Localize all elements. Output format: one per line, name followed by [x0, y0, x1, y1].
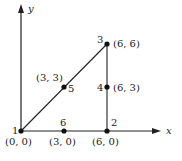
axes: y x — [18, 3, 172, 136]
node-2-number: 2 — [111, 117, 117, 128]
node-1-coord: (0, 0) — [5, 136, 32, 147]
node-4-number: 4 — [97, 82, 103, 93]
x-axis-label: x — [166, 125, 172, 136]
node-1-number: 1 — [12, 125, 18, 136]
node-5-coord: (3, 3) — [36, 72, 63, 83]
node-4 — [104, 84, 109, 89]
node-6-number: 6 — [60, 117, 66, 128]
node-3-number: 3 — [97, 34, 103, 45]
node-2 — [104, 128, 109, 133]
coordinate-diagram: y x 1 2 3 4 5 6 (0, 0) (6, 0) (6, 6) (6,… — [0, 0, 182, 161]
node-6 — [61, 128, 66, 133]
node-4-coord: (6, 3) — [113, 82, 140, 93]
node-3 — [104, 41, 109, 46]
x-axis-arrow-icon — [152, 128, 161, 134]
node-5-number: 5 — [68, 83, 74, 94]
node-6-coord: (3, 0) — [49, 136, 76, 147]
node-5 — [61, 84, 66, 89]
node-2-coord: (6, 0) — [92, 136, 119, 147]
node-3-coord: (6, 6) — [113, 38, 140, 49]
y-axis-label: y — [27, 3, 34, 14]
y-axis-arrow-icon — [18, 4, 24, 13]
node-1 — [18, 128, 23, 133]
